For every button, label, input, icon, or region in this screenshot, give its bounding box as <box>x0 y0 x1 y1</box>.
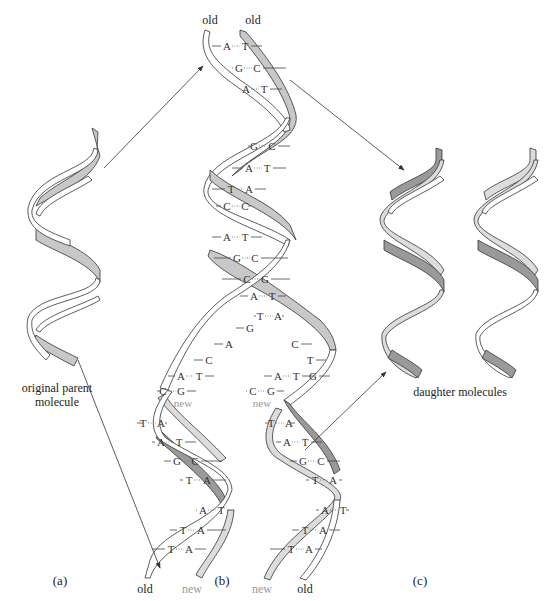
left-daughter-pair: TA <box>137 417 167 429</box>
label-new-left-fork: new <box>174 397 192 409</box>
base-left: T <box>228 183 235 195</box>
base-left: T <box>268 417 275 429</box>
label-old-right-bottom: old <box>297 582 312 596</box>
base-left: A <box>223 231 231 243</box>
base-left: T <box>168 543 175 555</box>
base-left: G <box>235 62 243 74</box>
base-right: A <box>305 543 313 555</box>
replicating-helix <box>145 30 341 580</box>
base-right: G <box>177 385 185 397</box>
base-left: C <box>243 273 250 285</box>
base-right: A <box>185 543 193 555</box>
label-old-left-bottom: old <box>137 582 152 596</box>
label-new-left-bottom: new <box>182 582 202 596</box>
parent-base-pair: AT <box>232 162 286 174</box>
base-right: T <box>218 504 225 516</box>
right-daughter-pair: TA <box>265 417 295 429</box>
base-right: A <box>245 183 253 195</box>
base-left: T <box>180 524 187 536</box>
base-left: T <box>288 543 295 555</box>
dna-replication-diagram: original parent molecule ATGCATGCATTACCA… <box>0 0 552 601</box>
arrow-parent-to-left-daughter <box>78 360 160 568</box>
label-old-top-left: old <box>202 13 217 27</box>
base-right: C <box>317 455 324 467</box>
base-right: A <box>319 524 327 536</box>
base-left: T <box>186 474 193 486</box>
parent-front-strand-2 <box>27 278 100 360</box>
base-left: C <box>159 385 166 397</box>
base-left: A <box>283 436 291 448</box>
base-left: T <box>312 474 319 486</box>
parent-caption-line1: original parent <box>22 381 93 395</box>
fork-left-base: G <box>246 322 254 334</box>
base-right: A <box>274 310 282 322</box>
label-new-right-fork: new <box>253 397 271 409</box>
base-left: A <box>177 370 185 382</box>
base-right: A <box>197 524 205 536</box>
right-old-strand <box>300 500 340 580</box>
arrow-replication-to-daughter-bottom <box>305 372 386 450</box>
base-right: C <box>253 62 260 74</box>
base-right: T <box>264 162 271 174</box>
base-left: A <box>245 162 253 174</box>
daughter-molecule-1 <box>380 148 444 378</box>
base-left: A <box>250 290 258 302</box>
base-right: T <box>196 370 203 382</box>
base-left: T <box>140 417 147 429</box>
parent-base-pair: AT <box>212 231 262 243</box>
base-right: C <box>268 140 275 152</box>
parent-base-pair: GC <box>248 140 290 152</box>
arrow-replication-to-daughter-top <box>290 80 404 170</box>
base-right: G <box>267 385 275 397</box>
label-new-right-bottom: new <box>252 582 272 596</box>
panel-label-b: (b) <box>214 573 229 588</box>
base-left: A <box>274 370 282 382</box>
parent-helix <box>27 128 100 366</box>
base-right: T <box>269 290 276 302</box>
base-right: T <box>242 40 249 52</box>
base-right: T <box>340 504 347 516</box>
parent-base-pair: GC <box>232 62 286 74</box>
fork-left-base: C <box>205 354 212 366</box>
base-left: A <box>157 436 165 448</box>
parent-back-strand-1 <box>36 128 100 206</box>
daughter-caption: daughter molecules <box>413 385 507 399</box>
base-left: C <box>249 385 256 397</box>
base-right: A <box>285 417 293 429</box>
daughter-molecule-2 <box>474 148 538 378</box>
parent-base-pair: TA <box>254 310 284 322</box>
parent-caption-line2: molecule <box>35 395 79 409</box>
base-left: A <box>242 83 250 95</box>
base-left: G <box>299 455 307 467</box>
base-left: G <box>233 252 241 264</box>
label-old-top-right: old <box>245 13 260 27</box>
base-right: A <box>203 474 211 486</box>
base-left: T <box>302 524 309 536</box>
base-left: A <box>223 40 231 52</box>
right-new-strand-front <box>264 408 341 580</box>
base-right: C <box>191 455 198 467</box>
daughter2-tail <box>482 350 516 378</box>
base-pairs-layer: ATGCATGCATTACCATGCCGATTAGACATCGCTGATCGTA… <box>137 40 349 555</box>
parent-front-strand-1 <box>28 148 98 246</box>
base-left: G <box>173 455 181 467</box>
base-right: C <box>251 252 258 264</box>
base-left: A <box>321 504 329 516</box>
panel-label-c: (c) <box>413 573 427 588</box>
base-right: T <box>242 231 249 243</box>
base-right: T <box>293 370 300 382</box>
fork-right-base: T <box>307 354 314 366</box>
base-right: C <box>241 200 248 212</box>
fork-left-base: A <box>225 338 233 350</box>
fork-left-pair: CG <box>157 385 196 397</box>
base-left: T <box>257 310 264 322</box>
left-daughter-pair: TA <box>180 474 226 486</box>
base-left: C <box>223 200 230 212</box>
base-right: T <box>261 83 268 95</box>
base-right: A <box>329 474 337 486</box>
base-right: G <box>261 273 269 285</box>
fork-right-pair: CG <box>246 385 284 397</box>
arrow-parent-to-replication <box>104 66 203 168</box>
fork-right-base: C <box>291 338 298 350</box>
base-right: T <box>176 436 183 448</box>
